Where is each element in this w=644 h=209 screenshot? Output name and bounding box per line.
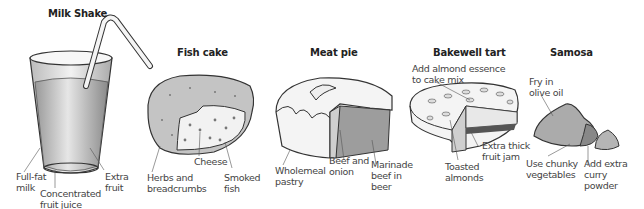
label-fry-in-olive-oil: Fry in olive oil <box>529 76 563 98</box>
label-marinade-beef-in-beer: Marinade beef in beer <box>371 159 413 192</box>
label-smoked-fish: Smoked fish <box>224 172 260 194</box>
item-title-milk-shake: Milk Shake <box>48 8 107 19</box>
label-beef-and-onion: Beef and onion <box>329 155 369 177</box>
label-concentrated-fruit-juice: Concentrated fruit juice <box>40 188 101 209</box>
label-extra-fruit: Extra fruit <box>105 171 129 193</box>
meat-pie-icon <box>276 78 392 165</box>
label-add-extra-curry-powder: Add extra curry powder <box>584 158 627 191</box>
item-title-bakewell-tart: Bakewell tart <box>433 47 506 58</box>
item-title-samosa: Samosa <box>550 47 593 58</box>
label-extra-thick-fruit-jam: Extra thick fruit jam <box>482 140 530 162</box>
item-title-fish-cake: Fish cake <box>177 47 228 58</box>
samosa-icon <box>534 95 619 166</box>
milkshake-glass-icon <box>24 17 150 188</box>
label-herbs-and-breadcrumbs: Herbs and breadcrumbs <box>147 172 207 194</box>
item-title-meat-pie: Meat pie <box>310 47 358 58</box>
label-add-almond-essence: Add almond essence to cake mix <box>412 63 505 85</box>
label-use-chunky-vegetables: Use chunky vegetables <box>526 158 578 180</box>
label-toasted-almonds: Toasted almonds <box>445 161 483 183</box>
label-cheese: Cheese <box>194 156 227 167</box>
label-wholemeal-pastry: Wholemeal pastry <box>275 165 326 187</box>
